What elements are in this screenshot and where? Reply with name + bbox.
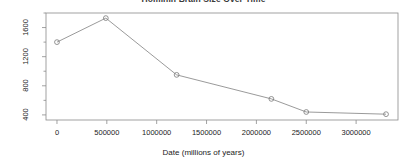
data-series-line	[57, 18, 386, 114]
plot-frame	[46, 13, 398, 120]
plot-frame-rect	[46, 13, 398, 120]
series-polyline	[57, 18, 386, 114]
chart-container: Hominin Brain Size Over Time Brain Size …	[0, 0, 407, 163]
x-axis-ticks	[57, 120, 356, 124]
plot-canvas	[0, 0, 407, 163]
y-axis-ticks	[42, 13, 46, 115]
data-point-markers	[55, 16, 389, 117]
